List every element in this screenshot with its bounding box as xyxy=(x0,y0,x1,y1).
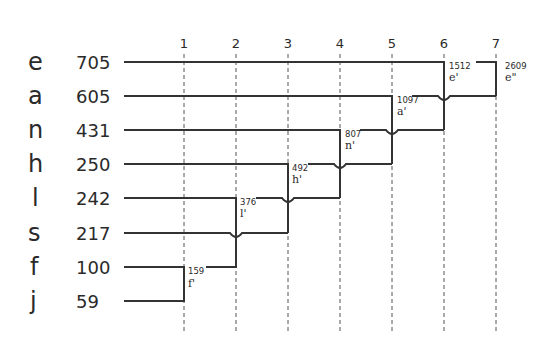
merge-weight-1: 159 xyxy=(188,266,204,276)
column-label-4: 4 xyxy=(336,36,344,51)
symbol-weight-f: 100 xyxy=(76,257,110,278)
huffman-diagram: 1 2 3 4 5 6 7 e a n h l s f j 705 605 43… xyxy=(0,0,557,353)
merge-weight-5: 1097 xyxy=(397,95,419,105)
symbol-weight-l: 242 xyxy=(76,188,110,209)
symbol-weight-a: 605 xyxy=(76,86,110,107)
merge-weight-3: 492 xyxy=(292,163,308,173)
merge-connectors xyxy=(124,62,496,301)
merge-name-5: a' xyxy=(397,105,407,118)
symbol-weight-n: 431 xyxy=(76,120,110,141)
symbol-letter-f: f xyxy=(30,253,39,281)
column-label-7: 7 xyxy=(492,36,500,51)
merge-weight-2: 376 xyxy=(240,197,256,207)
symbol-weight-s: 217 xyxy=(76,223,110,244)
symbol-letter-s: s xyxy=(28,219,41,247)
symbol-letter-n: n xyxy=(28,116,43,144)
symbol-letter-j: j xyxy=(29,287,37,315)
symbol-weight-j: 59 xyxy=(76,291,99,312)
merge-name-6: e' xyxy=(449,71,459,84)
merge-weight-4: 807 xyxy=(345,129,361,139)
symbol-letter-h: h xyxy=(28,150,43,178)
merge-name-1: f' xyxy=(188,277,195,290)
merge-name-4: n' xyxy=(345,139,355,152)
column-label-1: 1 xyxy=(180,36,188,51)
column-label-2: 2 xyxy=(232,36,240,51)
column-label-3: 3 xyxy=(284,36,292,51)
symbol-letter-a: a xyxy=(28,82,43,110)
column-label-6: 6 xyxy=(440,36,448,51)
merge-name-2: l' xyxy=(240,207,247,220)
symbol-weight-h: 250 xyxy=(76,154,110,175)
merge-name-3: h' xyxy=(292,173,302,186)
merge-weight-6: 1512 xyxy=(449,61,471,71)
merge-name-7: e" xyxy=(505,71,517,84)
symbol-weight-e: 705 xyxy=(76,52,110,73)
symbol-letter-l: l xyxy=(32,184,39,212)
merge-weight-7: 2609 xyxy=(505,61,527,71)
column-label-5: 5 xyxy=(388,36,396,51)
symbol-letter-e: e xyxy=(28,48,43,76)
